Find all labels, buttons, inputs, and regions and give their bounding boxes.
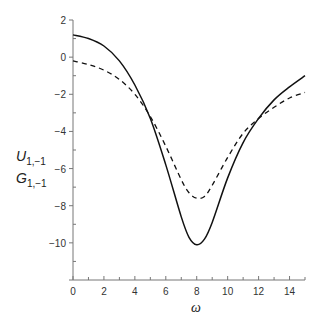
series-g-dashed-line: [73, 61, 305, 199]
y-label-u-sub: 1,−1: [26, 156, 46, 167]
y-tick-label: −6: [55, 164, 67, 175]
x-tick-label: 8: [194, 286, 200, 297]
x-tick-label: 10: [222, 286, 234, 297]
line-chart: 20−2−4−6−8−1002468101214 ω: [0, 0, 324, 326]
x-tick-label: 14: [284, 286, 296, 297]
y-tick-label: −4: [55, 126, 67, 137]
x-axis-label: ω: [191, 300, 201, 315]
x-tick-label: 12: [253, 286, 265, 297]
x-tick-label: 2: [101, 286, 107, 297]
y-tick-label: 0: [60, 52, 66, 63]
y-label-g-main: G: [16, 170, 27, 186]
y-axis-label-u: U1,−1: [16, 148, 46, 167]
axes: 20−2−4−6−8−1002468101214: [49, 15, 305, 297]
series-lines: [73, 35, 305, 245]
x-tick-label: 0: [70, 286, 76, 297]
series-u-solid-line: [73, 35, 305, 245]
y-label-u-main: U: [16, 148, 26, 164]
y-tick-label: −10: [49, 238, 66, 249]
y-label-g-sub: 1,−1: [27, 178, 47, 189]
x-tick-label: 4: [132, 286, 138, 297]
y-axis-label-g: G1,−1: [16, 170, 47, 189]
y-tick-label: −8: [55, 201, 67, 212]
y-tick-label: 2: [60, 15, 66, 26]
x-tick-label: 6: [163, 286, 169, 297]
y-tick-label: −2: [55, 89, 67, 100]
